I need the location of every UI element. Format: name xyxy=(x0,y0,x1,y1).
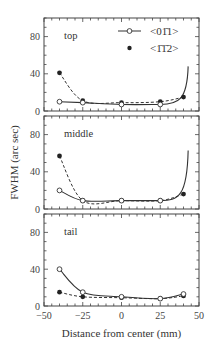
data-point-open xyxy=(57,99,62,104)
y-tick-label: 40 xyxy=(30,166,40,177)
x-axis-label: Distance from center (mm) xyxy=(62,327,182,340)
y-tick-label: 0 xyxy=(35,204,40,215)
series-line-112 xyxy=(60,73,184,104)
y-axis-label: FWHM (arc sec) xyxy=(8,125,21,200)
y-tick-label: 40 xyxy=(30,68,40,79)
legend-label-112: <1̄1̄2> xyxy=(150,42,179,54)
data-point-open xyxy=(80,100,85,105)
series-line-011 xyxy=(60,150,189,201)
y-tick-label: 80 xyxy=(30,227,40,238)
y-tick-label: 80 xyxy=(30,129,40,140)
fwhm-chart: 04080top<01̄1><1̄1̄2>04080middle04080tai… xyxy=(0,0,214,350)
y-tick-label: 80 xyxy=(30,31,40,42)
y-tick-label: 40 xyxy=(30,264,40,275)
data-point-open xyxy=(181,292,186,297)
data-point-filled xyxy=(57,154,62,159)
data-point-filled xyxy=(181,95,186,100)
series-line-112 xyxy=(60,156,184,204)
data-point-filled xyxy=(57,290,62,295)
data-point-open xyxy=(80,198,85,203)
panel-top: 04080top<01̄1><1̄1̄2> xyxy=(30,18,199,117)
data-point-open xyxy=(119,198,124,203)
data-point-open xyxy=(57,267,62,272)
data-point-open xyxy=(119,102,124,107)
data-point-open xyxy=(119,294,124,299)
data-point-open xyxy=(80,290,85,295)
data-point-open xyxy=(158,296,163,301)
legend: <01̄1><1̄1̄2> xyxy=(118,25,179,54)
y-tick-label: 0 xyxy=(35,106,40,117)
x-tick-label: 25 xyxy=(155,310,165,321)
data-point-open xyxy=(57,188,62,193)
series-line-011 xyxy=(60,66,189,104)
data-point-open xyxy=(158,198,163,203)
panel-middle: 04080middle xyxy=(30,116,199,215)
legend-label-011: <01̄1> xyxy=(150,25,179,37)
panel-label: top xyxy=(64,30,77,41)
data-point-open xyxy=(158,102,163,107)
data-point-filled xyxy=(181,192,186,197)
data-point-filled xyxy=(80,294,85,299)
data-point-filled xyxy=(57,70,62,75)
panel-label: tail xyxy=(64,226,77,237)
x-tick-label: 50 xyxy=(194,310,204,321)
panel-label: middle xyxy=(64,128,94,139)
x-tick-label: −25 xyxy=(75,310,91,321)
panel-tail: 04080tail xyxy=(30,214,199,312)
x-tick-label: −50 xyxy=(36,310,52,321)
x-tick-label: 0 xyxy=(119,310,124,321)
